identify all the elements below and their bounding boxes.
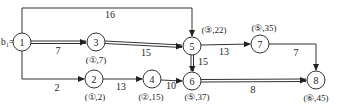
node-2: 2 (①,2) (85, 70, 106, 102)
edge-4-6: 10 (161, 80, 182, 91)
node-annotation-8: (⑥,45) (303, 93, 328, 103)
edge-weight-4-6: 10 (166, 80, 176, 91)
node-annotation-6: (⑤,37) (184, 92, 209, 102)
edge-6-8: 8 (201, 77, 307, 95)
node-7: 7 (⑤,35) (251, 23, 277, 53)
edge-weight-5-7: 13 (219, 46, 229, 57)
svg-text:3: 3 (94, 37, 99, 48)
edge-weight-5-6: 15 (198, 56, 208, 67)
edge-weight-7-8: 7 (294, 47, 299, 58)
node-annotation-2: (①,2) (85, 92, 106, 102)
node-annotation-7: (⑤,35) (251, 23, 276, 33)
svg-text:7: 7 (258, 39, 263, 50)
node-3: 3 (①,7) (86, 33, 107, 65)
edge-2-4: 13 (103, 79, 142, 92)
svg-text:6: 6 (190, 76, 195, 87)
edge-weight-1-5: 16 (105, 9, 115, 20)
edge-weight-2-4: 13 (116, 81, 126, 92)
node-6: 6 (⑤,37) (183, 72, 210, 102)
edge-3-5: 15 (105, 41, 183, 58)
edge-1-2: 2 (22, 51, 84, 93)
svg-text:2: 2 (92, 74, 97, 85)
edge-1-5: 16 (22, 8, 192, 36)
network-diagram: 16 7 15 13 7 2 13 10 (0, 0, 346, 109)
svg-text:1: 1 (20, 37, 25, 48)
node-8: 8 (⑥,45) (303, 71, 328, 103)
svg-text:4: 4 (150, 74, 155, 85)
svg-text:5: 5 (190, 41, 195, 52)
edge-5-6: 15 (189, 55, 208, 72)
edge-weight-6-8: 8 (251, 84, 256, 95)
edge-5-7: 13 (201, 44, 250, 57)
svg-text:8: 8 (314, 75, 319, 86)
edge-weight-1-2: 2 (55, 82, 60, 93)
edge-1-3: 7 (31, 39, 87, 56)
edge-weight-3-5: 15 (141, 47, 151, 58)
node-annotation-4: (②,15) (138, 92, 163, 102)
edge-weight-1-3: 7 (56, 45, 61, 56)
node-annotation-3: (①,7) (86, 55, 107, 65)
node-annotation-5: (③,22) (201, 25, 226, 35)
node-1: 1 (13, 33, 31, 51)
edge-7-8: 7 (269, 44, 316, 70)
node-4: 4 (②,15) (138, 70, 163, 102)
